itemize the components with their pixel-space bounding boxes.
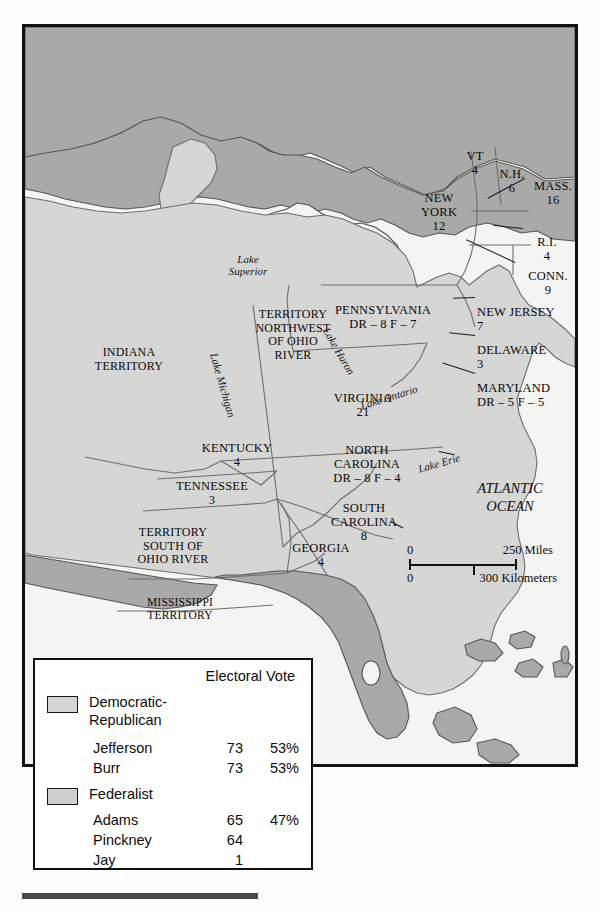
candidate-name: Burr <box>93 760 120 776</box>
scale-tick-start <box>409 559 411 570</box>
legend-candidate-row: Burr 73 53% <box>93 760 309 779</box>
scale-miles-zero: 0 <box>407 543 413 558</box>
bottom-rule <box>22 893 258 899</box>
legend-candidate-row: Pinckney 64 <box>93 832 309 851</box>
water-name: Lake Superior <box>229 253 268 277</box>
scale-tick-km-end <box>473 564 475 575</box>
candidate-name: Pinckney <box>93 832 152 848</box>
scale-bar-graphic <box>409 559 517 570</box>
water-name: ATLANTIC OCEAN <box>477 480 543 513</box>
candidate-votes: 73 <box>217 740 243 756</box>
water-label-atlantic-ocean: ATLANTIC OCEAN <box>445 463 575 515</box>
legend-candidate-row: Jay 1 <box>93 852 309 871</box>
scale-bar-line <box>409 564 517 566</box>
candidate-percent: 53% <box>259 740 299 756</box>
legend-header: Electoral Vote <box>206 668 295 684</box>
scale-miles-max: 250 Miles <box>503 543 553 558</box>
legend-box: Electoral Vote Democratic- Republican Je… <box>33 658 313 870</box>
map-canvas: .land { fill:#d6d6d4; stroke:#6d6d6d; st… <box>25 27 575 764</box>
candidate-percent: 47% <box>259 812 299 828</box>
candidate-votes: 73 <box>217 760 243 776</box>
legend-candidate-row: Jefferson 73 53% <box>93 740 309 759</box>
legend-party-name: Democratic- Republican <box>89 694 167 729</box>
water-label-lake-superior: Lake Superior <box>205 241 291 277</box>
map-figure: .land { fill:#d6d6d4; stroke:#6d6d6d; st… <box>0 0 598 910</box>
scale-km-zero: 0 <box>407 571 413 586</box>
legend-swatch-democratic-republican <box>47 696 78 713</box>
candidate-votes: 1 <box>217 852 243 868</box>
legend-swatch-federalist <box>47 788 78 805</box>
map-frame: .land { fill:#d6d6d4; stroke:#6d6d6d; st… <box>22 24 578 767</box>
scale-tick-miles-end <box>515 559 517 570</box>
scale-bar-miles-row: 0 250 Miles <box>407 543 553 558</box>
candidate-name: Jay <box>93 852 116 868</box>
candidate-name: Adams <box>93 812 138 828</box>
legend-candidate-row: Adams 65 47% <box>93 812 309 831</box>
candidate-name: Jefferson <box>93 740 152 756</box>
scale-km-max: 300 Kilometers <box>480 571 557 586</box>
scale-bar-km-row: 0 300 Kilometers <box>407 571 557 586</box>
map-geometry: .land { fill:#d6d6d4; stroke:#6d6d6d; st… <box>25 27 575 764</box>
candidate-votes: 64 <box>217 832 243 848</box>
scale-bar: 0 250 Miles 0 300 Kilometers <box>407 543 557 586</box>
candidate-percent: 53% <box>259 760 299 776</box>
legend-party-name: Federalist <box>89 786 153 804</box>
candidate-votes: 65 <box>217 812 243 828</box>
